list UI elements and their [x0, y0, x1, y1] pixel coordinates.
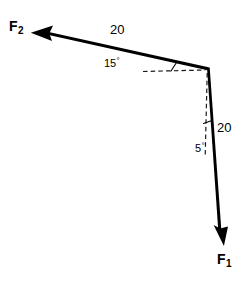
horizontal-reference-dashed-line: [143, 70, 206, 72]
angle-label-15-value: 15: [104, 57, 116, 69]
vertical-reference-dashed-line: [205, 73, 207, 156]
force-diagram-canvas: F2 20 15° 20 5° F1: [0, 0, 249, 288]
force-label-f1: F1: [217, 252, 232, 269]
magnitude-label-f2: 20: [110, 23, 124, 36]
degree-symbol-icon: °: [117, 56, 120, 65]
force-vector-f2-shaft: [47, 32, 209, 71]
angle-label-5-degrees: 5°: [195, 142, 205, 154]
angle-tick-15-icon: [171, 63, 177, 72]
force-label-f1-letter: F: [217, 251, 226, 267]
degree-symbol-icon: °: [201, 141, 204, 150]
force-label-f1-subscript: 1: [226, 258, 232, 269]
force-label-f2: F2: [9, 19, 24, 36]
force-vector-f1-shaft: [207, 68, 221, 232]
angle-label-15-degrees: 15°: [104, 57, 120, 69]
vector-diagram-svg: [0, 0, 249, 288]
force-label-f2-letter: F: [9, 18, 18, 34]
force-label-f2-subscript: 2: [18, 25, 24, 36]
magnitude-label-f1: 20: [217, 121, 231, 134]
